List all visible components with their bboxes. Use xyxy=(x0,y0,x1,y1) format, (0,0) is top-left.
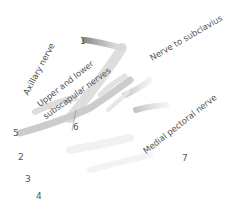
callout-6: 6 xyxy=(73,122,79,132)
callout-4: 4 xyxy=(36,191,42,201)
faint-structure-1 xyxy=(70,138,130,150)
callout-7: 7 xyxy=(182,153,188,163)
brachial-plexus-diagram: Axillary nerve Upper and lower subscapul… xyxy=(0,0,241,210)
nerve-fragment-b xyxy=(136,105,166,110)
callout-3: 3 xyxy=(25,174,31,184)
callout-1: 1 xyxy=(80,36,86,46)
nerve-segment-1 xyxy=(85,40,122,48)
callout-5: 5 xyxy=(13,128,19,138)
callout-2: 2 xyxy=(18,152,24,162)
faint-structure-2 xyxy=(90,155,150,170)
